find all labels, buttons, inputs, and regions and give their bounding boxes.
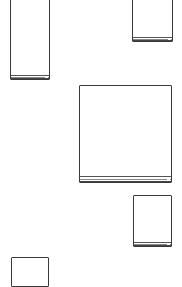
box-5 [11, 257, 49, 287]
box-base-edge [11, 75, 49, 79]
box-corner-notch [167, 179, 170, 181]
box-2 [132, 0, 173, 42]
box-4 [133, 195, 172, 247]
box-base-edge [80, 176, 171, 182]
box-corner-notch [168, 38, 171, 40]
box-base-edge [134, 242, 171, 246]
box-3 [79, 85, 172, 183]
box-base-edge [133, 37, 172, 41]
box-corner-notch [45, 76, 48, 78]
box-1 [10, 0, 50, 80]
box-corner-notch [167, 243, 170, 245]
